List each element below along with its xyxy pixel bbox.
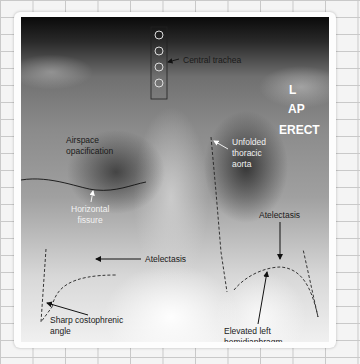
left-hemidiaphragm-dashed xyxy=(234,267,318,317)
label-atelectasis-left: Atelectasis xyxy=(259,210,300,221)
label-horizontal-fissure: Horizontal fissure xyxy=(71,204,109,226)
label-elevated-left-hemidiaphragm: Elevated left hemidiaphragm xyxy=(224,326,283,342)
label-sharp-costophrenic-angle: Sharp costophrenic angle xyxy=(50,315,123,337)
annotation-overlay xyxy=(21,17,329,342)
left-costophrenic-dashed xyxy=(303,249,318,317)
label-central-trachea: Central trachea xyxy=(183,55,241,66)
position-marker: ERECT xyxy=(279,123,320,137)
label-atelectasis-right: Atelectasis xyxy=(145,254,186,265)
side-marker: L xyxy=(289,83,296,97)
label-unfolded-thoracic-aorta: Unfolded thoracic aorta xyxy=(232,137,266,170)
aorta-arrow xyxy=(214,141,228,149)
right-costophrenic-dashed xyxy=(41,249,52,322)
trachea-arrow xyxy=(168,59,179,62)
horizontal-fissure-line xyxy=(21,179,146,190)
aorta-dashed-line xyxy=(211,137,227,292)
chest-xray-image: L AP ERECT Central trachea Airspace opac… xyxy=(21,17,329,342)
label-airspace-opacification: Airspace opacification xyxy=(66,135,113,157)
fissure-arrow xyxy=(91,191,93,202)
projection-marker: AP xyxy=(288,102,305,116)
right-hemidiaphragm-dashed xyxy=(52,275,116,307)
hemidiaphragm-arrow xyxy=(258,272,267,324)
trachea-outline xyxy=(151,27,167,99)
costophrenic-arrow xyxy=(47,303,88,315)
